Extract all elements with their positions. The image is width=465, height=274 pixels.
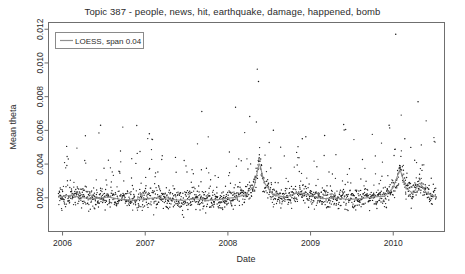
data-point — [164, 202, 165, 203]
data-point — [92, 197, 93, 198]
data-point — [108, 203, 109, 204]
data-point — [146, 195, 147, 196]
data-point — [100, 190, 101, 191]
data-point — [77, 186, 78, 187]
data-point — [168, 201, 169, 202]
data-point — [117, 203, 118, 204]
data-point — [124, 197, 125, 198]
data-point — [247, 168, 248, 169]
data-point — [279, 202, 280, 203]
data-point — [387, 175, 388, 176]
data-point — [387, 196, 388, 197]
data-point — [191, 192, 192, 193]
data-point — [225, 200, 226, 201]
data-point — [130, 191, 131, 192]
data-point — [282, 201, 283, 202]
data-point — [247, 184, 248, 185]
data-point — [280, 146, 281, 147]
data-point — [244, 132, 245, 133]
data-point — [420, 168, 421, 169]
data-point — [401, 114, 402, 115]
data-point — [265, 187, 266, 188]
data-point — [266, 192, 267, 193]
data-point — [130, 194, 131, 195]
data-point — [373, 193, 374, 194]
data-point — [178, 201, 179, 202]
data-point — [91, 190, 92, 191]
y-axis-title: Mean theta — [8, 104, 18, 149]
data-point — [68, 197, 69, 198]
data-point — [109, 199, 110, 200]
data-point — [172, 193, 173, 194]
data-point — [278, 199, 279, 200]
data-point — [186, 195, 187, 196]
data-point — [223, 195, 224, 196]
data-point — [435, 187, 436, 188]
data-point — [278, 197, 279, 198]
data-point — [347, 181, 348, 182]
data-point — [165, 196, 166, 197]
data-point — [330, 200, 331, 201]
data-point — [434, 190, 435, 191]
data-point — [131, 201, 132, 202]
data-point — [228, 202, 229, 203]
data-point — [355, 209, 356, 210]
data-point — [291, 186, 292, 187]
data-point — [181, 203, 182, 204]
data-point — [274, 189, 275, 190]
data-point — [267, 184, 268, 185]
data-point — [227, 199, 228, 200]
data-point-outlier — [302, 138, 304, 140]
data-point — [76, 194, 77, 195]
data-point — [100, 193, 101, 194]
data-point — [393, 190, 394, 191]
data-point — [100, 188, 101, 189]
data-point — [271, 184, 272, 185]
data-point — [409, 194, 410, 195]
data-point — [112, 171, 113, 172]
data-point — [332, 201, 333, 202]
data-point — [221, 201, 222, 202]
data-point — [276, 203, 277, 204]
data-point — [320, 200, 321, 201]
data-point — [236, 166, 237, 167]
data-point — [249, 197, 250, 198]
data-point — [233, 199, 234, 200]
data-point — [144, 205, 145, 206]
data-point — [74, 191, 75, 192]
data-point — [347, 210, 348, 211]
data-point — [347, 196, 348, 197]
data-point — [119, 171, 120, 172]
data-point — [270, 196, 271, 197]
data-point — [166, 187, 167, 188]
data-point — [408, 194, 409, 195]
data-point — [143, 206, 144, 207]
data-point — [76, 193, 77, 194]
data-point — [62, 189, 63, 190]
data-point — [174, 201, 175, 202]
data-point — [291, 208, 292, 209]
data-point — [197, 204, 198, 205]
data-point — [153, 191, 154, 192]
data-point — [288, 181, 289, 182]
data-point — [344, 195, 345, 196]
data-point — [413, 184, 414, 185]
data-point — [414, 160, 415, 161]
data-point — [317, 202, 318, 203]
data-point — [123, 194, 124, 195]
data-point — [210, 206, 211, 207]
data-point — [343, 193, 344, 194]
data-point — [386, 207, 387, 208]
data-point — [212, 195, 213, 196]
data-point — [296, 199, 297, 200]
data-point — [261, 165, 262, 166]
data-point — [218, 207, 219, 208]
data-point — [191, 204, 192, 205]
data-point — [270, 187, 271, 188]
data-point — [181, 206, 182, 207]
data-point — [199, 200, 200, 201]
data-point — [61, 210, 62, 211]
data-point — [173, 195, 174, 196]
data-point — [311, 191, 312, 192]
data-point — [335, 154, 336, 155]
